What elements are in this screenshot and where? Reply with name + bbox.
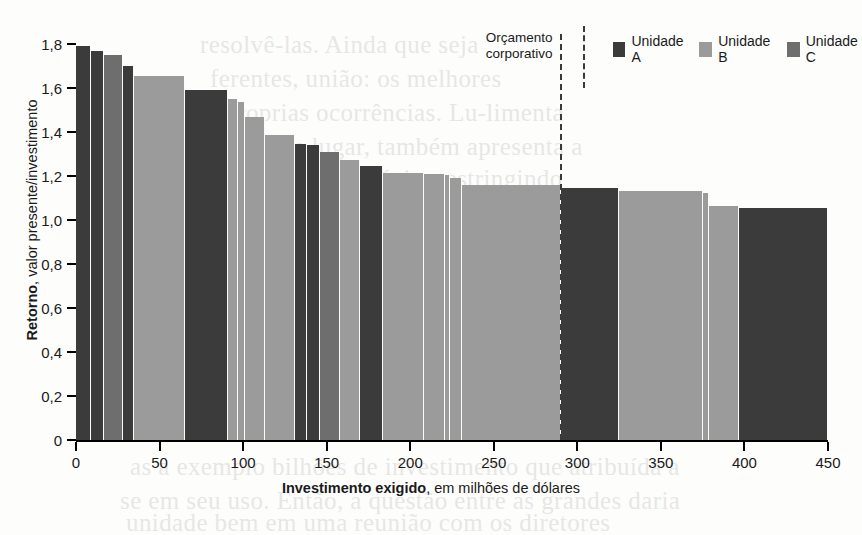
bar [265,135,295,440]
x-tick-mark [493,442,495,451]
x-tick-mark [660,442,662,451]
legend-label: Unidade A [631,33,686,65]
bar [703,193,710,441]
bar [462,185,561,440]
bar [360,166,383,440]
bar [383,173,423,440]
y-tick-mark [67,43,76,45]
legend-swatch-icon [787,42,800,57]
x-tick-mark [326,442,328,451]
bar [561,188,619,440]
y-tick-label: 0 [22,432,62,449]
x-axis-title-bold: Investimento exigido [282,480,426,496]
plot-area [76,44,828,440]
bar [104,55,122,440]
bar [76,46,91,440]
x-tick-label: 200 [380,454,440,471]
budget-line [560,34,562,440]
bar [123,66,135,440]
x-axis-title-rest: , em milhões de dólares [426,480,580,496]
legend-swatch-icon [699,42,712,57]
x-tick-mark [75,442,77,451]
legend-swatch-icon [613,42,626,57]
bar [134,76,184,440]
x-tick-label: 150 [297,454,357,471]
chart-legend: Unidade AUnidade BUnidade C [613,33,862,65]
x-tick-mark [743,442,745,451]
x-tick-mark [159,442,161,451]
bar [320,152,340,440]
bar [185,90,228,440]
bar [739,208,828,440]
x-axis-title: Investimento exigido, em milhões de dóla… [0,480,862,496]
x-tick-mark [409,442,411,451]
x-tick-label: 350 [631,454,691,471]
bar [307,145,320,440]
x-tick-mark [576,442,578,451]
bar [295,144,307,440]
y-tick-mark [67,439,76,441]
budget-annotation-label: Orçamento corporativo [431,30,553,62]
y-tick-mark [67,219,76,221]
y-tick-label: 1,8 [22,36,62,53]
y-tick-mark [67,87,76,89]
y-tick-mark [67,395,76,397]
x-tick-label: 250 [464,454,524,471]
x-tick-mark [242,442,244,451]
x-tick-mark [827,442,829,451]
bar [245,117,265,440]
legend-item: Unidade B [699,33,773,65]
y-tick-label: 0,8 [22,256,62,273]
legend-item: Unidade C [787,33,862,65]
x-tick-label: 300 [547,454,607,471]
bar [619,191,703,440]
y-tick-mark [67,263,76,265]
x-tick-label: 400 [714,454,774,471]
budget-annotation-line2: corporativo [431,46,553,62]
x-tick-label: 0 [46,454,106,471]
y-tick-label: 0,2 [22,388,62,405]
x-tick-label: 450 [798,454,858,471]
x-axis-line [76,440,828,442]
y-tick-label: 1,2 [22,168,62,185]
x-tick-label: 50 [130,454,190,471]
y-tick-mark [67,131,76,133]
y-tick-label: 0,4 [22,344,62,361]
y-tick-label: 1,0 [22,212,62,229]
bar [340,160,360,441]
legend-label: Unidade B [718,33,774,65]
bar [228,99,238,440]
y-tick-label: 0,6 [22,300,62,317]
y-tick-label: 1,6 [22,80,62,97]
bar [238,102,245,440]
y-tick-label: 1,4 [22,124,62,141]
y-tick-mark [67,307,76,309]
bar [91,51,104,440]
legend-item: Unidade A [613,33,687,65]
x-tick-label: 100 [213,454,273,471]
budget-annotation-line1: Orçamento [431,30,553,46]
bar [424,174,446,440]
legend-label: Unidade C [806,33,862,65]
y-tick-mark [67,351,76,353]
legend-divider [583,26,585,88]
y-tick-mark [67,175,76,177]
bar [450,178,462,440]
bar [709,206,739,440]
